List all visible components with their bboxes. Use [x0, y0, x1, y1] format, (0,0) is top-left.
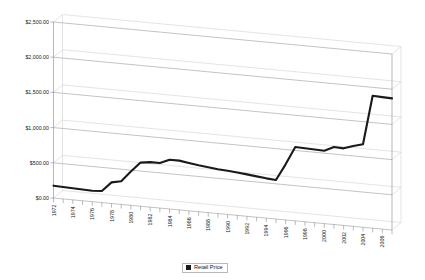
x-axis-tick-label: 2006: [379, 236, 385, 248]
x-axis-tick-label: 2000: [321, 230, 327, 242]
x-axis-tick-label: 1978: [109, 210, 115, 222]
y-axis-labels: $0.00$500.00$1,000.00$1,500.00$2,000.00$…: [25, 19, 49, 201]
chart-walls: [54, 15, 402, 231]
x-axis-tick-label: 1974: [70, 206, 76, 218]
x-axis-tick-label: 1992: [244, 223, 250, 235]
x-axis-tick-label: 2002: [341, 232, 347, 244]
x-axis-tick-label: 1984: [167, 215, 173, 227]
y-axis-tick-label: $500.00: [30, 160, 49, 166]
y-axis-tick-label: $0.00: [36, 195, 49, 201]
line-chart-3d: $0.00$500.00$1,000.00$1,500.00$2,000.00$…: [0, 0, 425, 280]
chart-container: $0.00$500.00$1,000.00$1,500.00$2,000.00$…: [0, 0, 425, 280]
y-axis-tick-label: $2,500.00: [25, 19, 49, 25]
chart-legend: Retail Price: [182, 263, 228, 273]
y-axis-tick-label: $1,500.00: [25, 89, 49, 95]
x-axis-tick-label: 1976: [89, 208, 95, 220]
legend-item-label: Retail Price: [194, 265, 223, 271]
x-axis-tick-label: 1986: [186, 217, 192, 229]
legend-swatch-icon: [186, 265, 191, 270]
x-axis-tick-label: 1990: [225, 221, 231, 233]
y-axis-tick-label: $2,000.00: [25, 54, 49, 60]
x-axis-tick-label: 2004: [360, 234, 366, 246]
x-axis-labels: 1972197419761978198019821984198619881990…: [51, 204, 386, 247]
x-axis-tick-label: 1998: [302, 228, 308, 240]
x-axis-tick-label: 1980: [128, 212, 134, 224]
y-axis-tick-label: $1,000.00: [25, 125, 49, 131]
x-axis-tick-label: 1994: [263, 225, 269, 237]
x-axis-tick-label: 1988: [205, 219, 211, 231]
x-axis-tick-label: 1972: [51, 204, 57, 216]
gridlines-group: [54, 15, 402, 231]
x-axis-tick-label: 1982: [147, 214, 153, 226]
x-axis-tick-label: 1996: [283, 226, 289, 238]
